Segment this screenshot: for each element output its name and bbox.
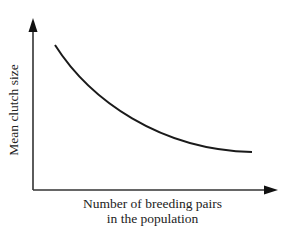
chart-canvas xyxy=(0,0,291,229)
x-axis-label-line-2: in the population xyxy=(70,211,235,226)
y-axis-arrow-icon xyxy=(29,18,38,32)
y-axis-label-text: Mean clutch size xyxy=(6,64,22,155)
x-axis-label-line-1: Number of breeding pairs xyxy=(70,196,235,211)
y-axis-label: Mean clutch size xyxy=(4,45,24,175)
clutch-size-curve xyxy=(55,45,252,152)
x-axis-label: Number of breeding pairs in the populati… xyxy=(70,196,235,226)
x-axis-arrow-icon xyxy=(264,186,278,195)
